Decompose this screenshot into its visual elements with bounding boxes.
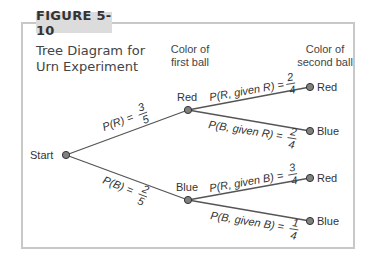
- svg-text:2: 2: [289, 125, 298, 138]
- svg-text:5: 5: [141, 112, 152, 126]
- tree-diagram: Start Red Blue Red Blue Red Blue P(R) = …: [0, 0, 374, 265]
- svg-text:P(B) =: P(B) =: [101, 174, 135, 197]
- edge-label-blue-red: P(R, given B) = 3 4: [207, 161, 299, 201]
- svg-text:2: 2: [285, 70, 294, 83]
- node-blue-red: [306, 174, 313, 181]
- svg-text:4: 4: [290, 174, 298, 187]
- label-first-blue: Blue: [176, 181, 198, 193]
- svg-text:P(B, given R) =: P(B, given R) =: [208, 118, 284, 142]
- svg-text:4: 4: [288, 83, 296, 96]
- svg-text:4: 4: [290, 229, 298, 242]
- node-start: [62, 151, 69, 158]
- svg-text:5: 5: [136, 195, 147, 209]
- svg-text:P(B, given B) =: P(B, given B) =: [210, 209, 286, 233]
- svg-text:3: 3: [136, 100, 147, 114]
- node-first-blue: [184, 196, 191, 203]
- svg-text:3: 3: [288, 161, 297, 174]
- label-blue-blue: Blue: [317, 215, 339, 227]
- label-blue-red: Red: [317, 172, 337, 184]
- svg-text:P(R) =: P(R) =: [101, 110, 136, 132]
- svg-text:P(R, given B) =: P(R, given B) =: [208, 169, 284, 194]
- svg-text:2: 2: [140, 182, 151, 196]
- node-red-blue: [306, 127, 313, 134]
- node-blue-blue: [306, 217, 313, 224]
- svg-text:1: 1: [292, 216, 300, 229]
- node-first-red: [184, 106, 191, 113]
- edge-label-start-blue: P(B) = 2 5: [99, 168, 152, 208]
- edge-label-red-blue: P(B, given R) = 2 4: [207, 112, 299, 151]
- label-red-blue: Blue: [317, 125, 339, 137]
- label-start: Start: [30, 149, 53, 161]
- svg-text:4: 4: [288, 138, 296, 151]
- label-red-red: Red: [317, 81, 337, 93]
- edge-label-blue-blue: P(B, given B) = 1 4: [209, 203, 301, 242]
- label-first-red: Red: [177, 91, 197, 103]
- node-red-red: [306, 83, 313, 90]
